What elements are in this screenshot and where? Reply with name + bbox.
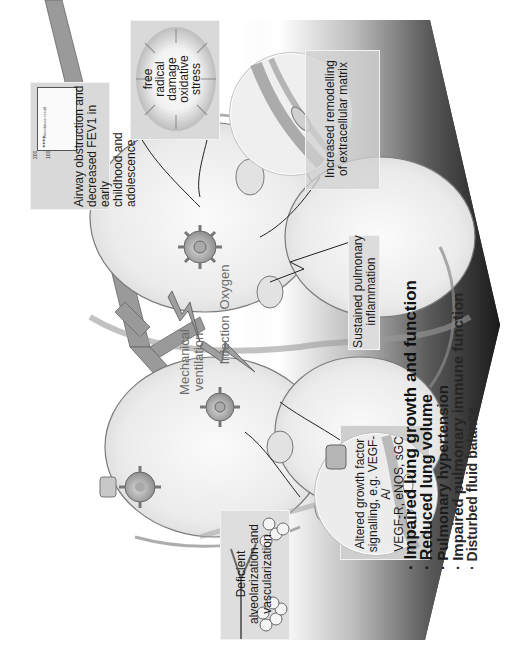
outcome-item: · Disturbed fluid balance [465,190,479,570]
callout-inflammation: Sustained pulmonary inflammation [348,235,380,350]
fev1-inset-chart: Resistance-result ●●●● [37,87,77,151]
outcome-item: · Reduced lung volume [419,190,435,570]
outcomes-list: · Impaired lung growth and function · Re… [402,190,479,570]
outcome-item: · Impaired lung growth and function [402,190,419,570]
callout-free-radical: free radical damage oxidative stress [130,20,220,140]
oxygen-label: Oxygen [218,252,232,322]
growth-factor-label: Altered growth factor signalling, e.g. V… [354,434,406,554]
callout-alveolarization: Deficient alveolarization and vasculariz… [220,510,290,640]
airway-label: Airway obstruction and decreased FEV1 in… [73,83,138,207]
callout-airway-obstruction: Resistance-result ●●●● 200 100 Airway ob… [30,82,110,210]
inset-legend: Resistance-result [42,107,47,138]
inset-tick-mid: 100 [45,151,51,159]
inflammation-label: Sustained pulmonary inflammation [352,234,378,349]
bpd-pathogenesis-figure: Resistance-result ●●●● 200 100 Airway ob… [0,0,510,647]
callout-remodelling: Increased remodelling of extracellular m… [305,50,380,190]
legend-dots: ●●●● [40,136,46,148]
free-radical-label: free radical damage oxidative stress [142,19,202,139]
remodelling-label: Increased remodelling of extracellular m… [324,49,350,189]
inset-tick-top: 200 [32,151,38,159]
outcome-item: · Impaired pulmonary immune function [450,190,465,570]
outcome-item: · Pulmonary hypertension [435,190,450,570]
alveolarization-label: Deficient alveolarization and vasculariz… [235,509,274,639]
mechanical-ventilation-label: Mechanical ventilation [178,317,206,407]
